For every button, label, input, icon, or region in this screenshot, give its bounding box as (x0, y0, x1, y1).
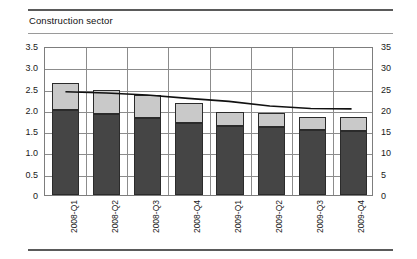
line-series-path (65, 92, 351, 109)
left-axis-tick-label: 1.0 (4, 148, 38, 158)
x-axis-tick-label: 2009-Q1 (233, 200, 243, 233)
header-rule-top (28, 9, 393, 11)
left-axis-tick-label: 2.5 (4, 85, 38, 95)
right-axis-tick-label: 5 (381, 170, 411, 180)
x-axis-tick-label: 2009-Q3 (315, 200, 325, 233)
figure-title-clipped: 2008 to 2009 (0, 0, 417, 3)
right-axis-tick-label: 10 (381, 148, 411, 158)
left-axis-tick-label: 0 (4, 191, 38, 201)
right-axis-tick-label: 20 (381, 106, 411, 116)
plot-area (44, 47, 373, 196)
x-axis-tick-label: 2008-Q4 (192, 200, 202, 233)
right-axis-tick-label: 35 (381, 42, 411, 52)
right-axis-tick-label: 30 (381, 63, 411, 73)
footer-rule (28, 249, 393, 251)
right-axis-tick-label: 25 (381, 85, 411, 95)
x-axis-tick-label: 2009-Q2 (274, 200, 284, 233)
x-axis-tick-label: 2009-Q4 (356, 200, 366, 233)
left-axis-tick-label: 2.0 (4, 106, 38, 116)
right-axis-tick-label: 0 (381, 191, 411, 201)
subtitle-rule (28, 33, 393, 34)
x-axis-tick-label: 2008-Q1 (69, 200, 79, 233)
right-axis-tick-label: 15 (381, 127, 411, 137)
left-axis-tick-label: 1.5 (4, 127, 38, 137)
line-series-layer (45, 48, 372, 195)
left-axis-tick-label: 3.0 (4, 63, 38, 73)
left-axis-tick-label: 3.5 (4, 42, 38, 52)
x-axis-tick-label: 2008-Q2 (110, 200, 120, 233)
left-axis-tick-label: 0.5 (4, 170, 38, 180)
chart-subtitle: Construction sector (29, 15, 113, 26)
chart-figure: 2008 to 2009 Construction sector 00.51.0… (0, 0, 417, 259)
x-axis-tick-label: 2008-Q3 (151, 200, 161, 233)
